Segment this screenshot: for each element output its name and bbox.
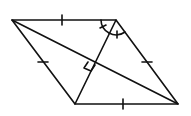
right-angle-marker — [84, 62, 95, 71]
rhombus-diagram — [0, 0, 191, 116]
